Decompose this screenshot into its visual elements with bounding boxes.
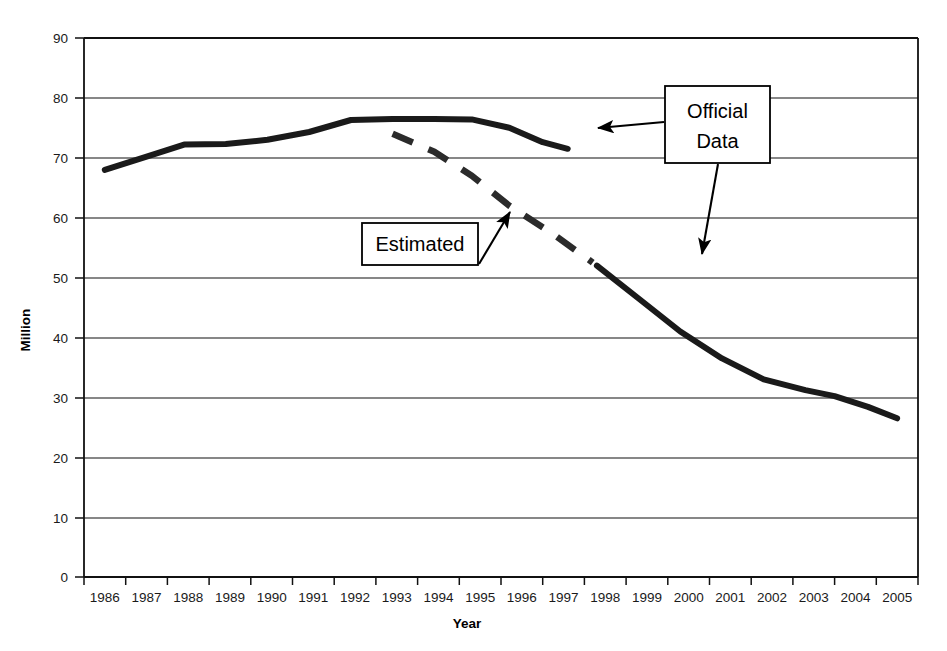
x-tick-label: 1993	[382, 590, 412, 605]
y-tick-label: 50	[53, 271, 68, 286]
chart-container: 90 80 70 60 50 40 30 20 10 0 Million 198…	[0, 0, 947, 651]
plot-background	[84, 38, 918, 577]
y-tick-label: 70	[53, 151, 68, 166]
x-tick-label: 2001	[715, 590, 745, 605]
x-tick-label: 2000	[674, 590, 704, 605]
y-axis-title: Million	[18, 309, 33, 352]
y-tick-label: 90	[53, 31, 68, 46]
x-tick-label: 2005	[882, 590, 912, 605]
x-tick-label: 1990	[257, 590, 287, 605]
x-axis-tick-labels: 1986198719881989199019911992199319941995…	[90, 590, 912, 605]
x-tick-label: 1987	[132, 590, 162, 605]
y-tick-label: 40	[53, 331, 68, 346]
x-tick-label: 2004	[840, 590, 871, 605]
x-tick-label: 1998	[590, 590, 620, 605]
annotation-label-estimated: Estimated	[376, 233, 465, 255]
x-tick-label: 1999	[632, 590, 662, 605]
x-axis-ticks	[84, 577, 918, 585]
y-axis-tick-labels: 90 80 70 60 50 40 30 20 10 0	[53, 31, 68, 585]
x-tick-label: 1989	[215, 590, 245, 605]
y-tick-label: 10	[53, 511, 68, 526]
y-tick-label: 60	[53, 211, 68, 226]
x-tick-label: 2003	[799, 590, 829, 605]
y-tick-label: 0	[60, 570, 68, 585]
annotation-label-official-data: Official	[687, 100, 748, 122]
y-tick-label: 20	[53, 451, 68, 466]
x-tick-label: 2002	[757, 590, 787, 605]
y-tick-label: 30	[53, 391, 68, 406]
x-tick-label: 1995	[465, 590, 495, 605]
y-axis-ticks	[75, 38, 84, 577]
x-axis-title: Year	[453, 616, 482, 631]
x-tick-label: 1994	[423, 590, 454, 605]
x-tick-label: 1997	[549, 590, 579, 605]
x-tick-label: 1996	[507, 590, 537, 605]
y-tick-label: 80	[53, 91, 68, 106]
x-tick-label: 1988	[173, 590, 203, 605]
annotation-label2-official-data: Data	[696, 130, 739, 152]
x-tick-label: 1991	[298, 590, 328, 605]
line-chart-svg: 90 80 70 60 50 40 30 20 10 0 Million 198…	[0, 0, 947, 651]
x-tick-label: 1992	[340, 590, 370, 605]
x-tick-label: 1986	[90, 590, 120, 605]
